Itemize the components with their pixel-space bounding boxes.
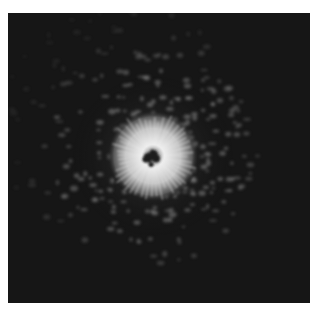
speckle-image (8, 13, 310, 303)
speckle-pattern (8, 13, 310, 303)
